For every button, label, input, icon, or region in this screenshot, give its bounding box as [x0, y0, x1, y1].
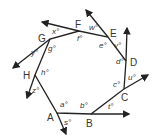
vertex-label-h: H: [23, 70, 30, 81]
exterior-angle-label: x°: [51, 27, 60, 36]
interior-angle-label: a°: [60, 100, 68, 109]
ray-arrow-f: [42, 22, 79, 31]
interior-angle-label: b°: [80, 101, 88, 110]
vertex-label-d: D: [130, 57, 137, 68]
exterior-angle-label: s°: [64, 118, 72, 127]
interior-angle-label: c°: [113, 80, 121, 89]
exterior-angle-label: u°: [128, 73, 136, 82]
interior-angle-label: h°: [41, 68, 49, 77]
ray-arrow-d: [126, 28, 127, 61]
vertex-label-e: E: [110, 28, 117, 39]
vertex-label-c: C: [121, 92, 128, 103]
vertex-label-g: G: [38, 33, 46, 44]
exterior-angle-label: t°: [108, 102, 114, 111]
interior-angle-label: e°: [99, 41, 107, 50]
interior-angle-label: f°: [77, 34, 83, 43]
interior-angle-label: d°: [116, 57, 124, 66]
exterior-angle-label: z°: [31, 86, 40, 95]
interior-angle-label: g°: [48, 44, 56, 53]
exterior-angle-label: y°: [30, 48, 39, 57]
vertex-label-f: F: [75, 19, 81, 30]
polygon-diagram: ABCDEFGH a°b°c°d°e°f°g°h° s°t°u°v°w°x°y°…: [0, 0, 152, 140]
exterior-angle-label: w°: [89, 23, 99, 32]
vertex-label-b: B: [86, 118, 93, 129]
exterior-angle-label: v°: [114, 41, 122, 50]
vertex-label-a: A: [47, 112, 54, 123]
